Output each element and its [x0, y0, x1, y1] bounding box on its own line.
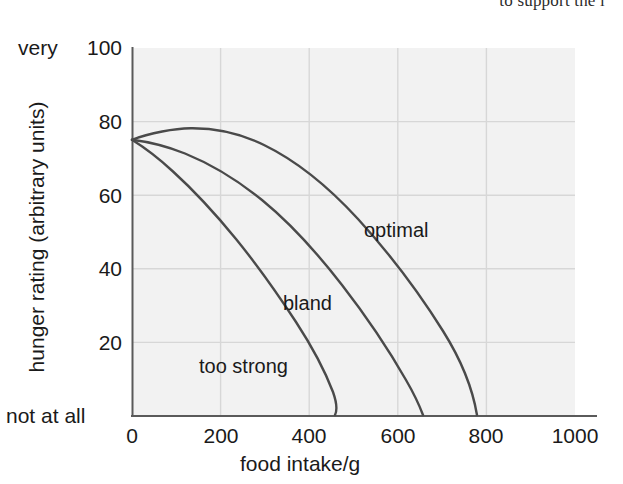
x-axis-title: food intake/g: [240, 452, 360, 476]
chart-plot-svg: [0, 0, 623, 484]
y-tick-20: 20: [62, 331, 122, 355]
y-axis-title: hunger rating (arbitrary units): [25, 87, 49, 387]
y-tick-60: 60: [62, 184, 122, 208]
y-tick-100: 100: [62, 36, 122, 60]
x-tick-600: 600: [363, 424, 433, 448]
x-tick-0: 0: [97, 424, 167, 448]
curve-label-too-strong: too strong: [199, 355, 288, 378]
hunger-rating-chart-figure: 100 80 60 40 20 very not at all 0 200 40…: [0, 0, 623, 484]
x-tick-800: 800: [451, 424, 521, 448]
y-tick-40: 40: [62, 257, 122, 281]
curve-label-bland: bland: [283, 292, 332, 315]
curve-label-optimal: optimal: [364, 219, 428, 242]
y-anchor-very: very: [18, 36, 58, 60]
y-anchor-not-at-all: not at all: [6, 404, 85, 428]
x-tick-400: 400: [274, 424, 344, 448]
y-tick-80: 80: [62, 110, 122, 134]
x-tick-1000: 1000: [540, 424, 610, 448]
x-tick-200: 200: [186, 424, 256, 448]
